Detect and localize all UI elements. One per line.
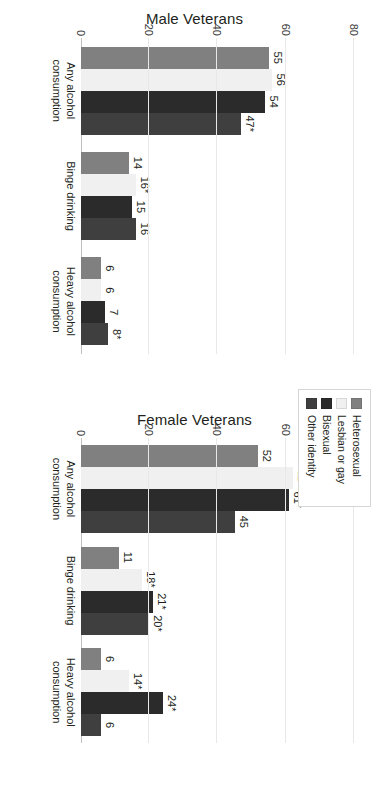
y-tick-label: 40: [211, 424, 223, 436]
bar[interactable]: 55: [81, 47, 269, 69]
y-tick-label: 0: [75, 430, 87, 436]
plot-area-male: 55565447*1416*15166678*: [81, 38, 371, 354]
bar-slot: 54: [81, 91, 371, 113]
legend-label: Heterosexual: [351, 415, 363, 477]
legend-swatch: [307, 398, 318, 409]
bar-value-label: 15: [135, 201, 147, 213]
bar-value-label: 6: [104, 265, 116, 271]
bar-group: 1416*1516: [81, 143, 371, 248]
bar[interactable]: 45: [81, 511, 235, 533]
category-label: Heavy alcohol consumption: [7, 641, 81, 743]
bar[interactable]: 16*: [81, 174, 136, 196]
bar[interactable]: 56: [81, 69, 272, 91]
bar-slot: 6: [81, 714, 371, 736]
bar[interactable]: 8*: [81, 323, 108, 345]
bar-value-label: 18*: [145, 571, 157, 588]
bar-groups-male: 55565447*1416*15166678*: [81, 38, 371, 354]
bar-slot: 47*: [81, 113, 371, 135]
y-tick-label: 20: [143, 424, 155, 436]
category-label: Heavy alcohol consumption: [7, 249, 81, 354]
bar-value-label: 14: [132, 157, 144, 169]
bar-group: 55565447*: [81, 38, 371, 143]
bar-value-label: 7: [108, 309, 120, 315]
chart-legend: HeterosexualLesbian or gayBisexualOther …: [298, 389, 371, 507]
legend-item[interactable]: Other identity: [306, 398, 318, 498]
bar[interactable]: 6: [81, 257, 101, 279]
legend-label: Other identity: [306, 415, 318, 477]
category-label: Any alcohol consumption: [7, 38, 81, 143]
bar-slot: 7: [81, 301, 371, 323]
gridline: [285, 38, 286, 354]
y-tick-label: 20: [143, 24, 155, 36]
bar-value-label: 20*: [152, 615, 164, 632]
y-tick-label: 60: [280, 24, 292, 36]
bar-group: 614*24*6: [81, 641, 371, 743]
bar[interactable]: 11: [81, 547, 119, 569]
bar-slot: 11: [81, 547, 371, 569]
bar[interactable]: 24*: [81, 692, 163, 714]
bar[interactable]: 14: [81, 152, 129, 174]
legend-swatch: [337, 398, 348, 409]
bar-value-label: 55: [272, 52, 284, 64]
category-labels-male: Any alcohol consumptionBinge drinkingHea…: [7, 38, 81, 354]
category-label: Binge drinking: [7, 143, 81, 248]
bar-slot: 56: [81, 69, 371, 91]
bar[interactable]: 52: [81, 445, 258, 467]
bar-slot: 14*: [81, 670, 371, 692]
bar[interactable]: 62*: [81, 467, 293, 489]
bar[interactable]: 6: [81, 714, 101, 736]
bar-value-label: 14*: [132, 673, 144, 690]
y-axis-ticklabels-male: 020406080: [81, 0, 371, 40]
y-tick-label: 0: [75, 30, 87, 36]
bar-slot: 16: [81, 218, 371, 240]
bar[interactable]: 6: [81, 648, 101, 670]
bar-group: 6678*: [81, 249, 371, 354]
bar-value-label: 21*: [156, 593, 168, 610]
gridline: [216, 38, 217, 354]
bar-value-label: 54: [268, 96, 280, 108]
bar[interactable]: 6: [81, 279, 101, 301]
bar-slot: 14: [81, 152, 371, 174]
bar-value-label: 8*: [111, 329, 123, 339]
bar[interactable]: 21*: [81, 591, 153, 613]
category-labels-female: Any alcohol consumptionBinge drinkingHea…: [7, 438, 81, 743]
bar[interactable]: 16: [81, 218, 136, 240]
y-tick-label: 40: [211, 24, 223, 36]
bar-value-label: 6: [104, 656, 116, 662]
gridline: [353, 38, 354, 354]
category-label: Any alcohol consumption: [7, 438, 81, 540]
bar[interactable]: 14*: [81, 670, 129, 692]
bar-value-label: 24*: [166, 695, 178, 712]
bar[interactable]: 20*: [81, 613, 149, 635]
chart-figure: Male Veterans 020406080 55565447*1416*15…: [0, 0, 389, 789]
gridline: [148, 38, 149, 354]
bar-slot: 15: [81, 196, 371, 218]
bar[interactable]: 54: [81, 91, 265, 113]
bar[interactable]: 15: [81, 196, 132, 218]
bar[interactable]: 61*: [81, 489, 289, 511]
legend-item[interactable]: Bisexual: [321, 398, 333, 498]
bar-group: 1118*21*20*: [81, 540, 371, 642]
bar-value-label: 6: [104, 287, 116, 293]
bar-slot: 24*: [81, 692, 371, 714]
legend-item[interactable]: Heterosexual: [351, 398, 363, 498]
bar[interactable]: 18*: [81, 569, 142, 591]
panel-male-veterans: Male Veterans 020406080 55565447*1416*15…: [0, 0, 389, 400]
bar-slot: 45: [81, 511, 371, 533]
y-tick-label: 80: [348, 24, 360, 36]
bar-slot: 8*: [81, 323, 371, 345]
category-label: Binge drinking: [7, 540, 81, 642]
bar-slot: 18*: [81, 569, 371, 591]
bar-value-label: 52: [261, 450, 273, 462]
bar-slot: 6: [81, 279, 371, 301]
legend-label: Lesbian or gay: [336, 415, 348, 484]
bar-slot: 16*: [81, 174, 371, 196]
bar-slot: 20*: [81, 613, 371, 635]
bar-slot: 55: [81, 47, 371, 69]
bar[interactable]: 7: [81, 301, 105, 323]
bar-slot: 6: [81, 648, 371, 670]
bar-slot: 6: [81, 257, 371, 279]
legend-item[interactable]: Lesbian or gay: [336, 398, 348, 498]
bar-value-label: 45: [238, 516, 250, 528]
y-tick-label: 60: [280, 424, 292, 436]
